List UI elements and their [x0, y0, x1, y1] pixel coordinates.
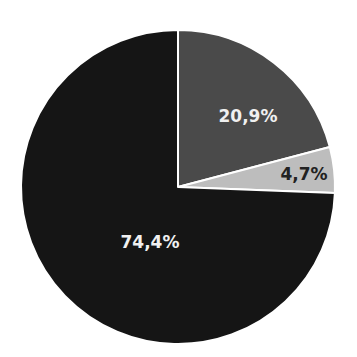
- pie-slices: [21, 30, 335, 344]
- slice-label-1: 20,9%: [219, 106, 278, 126]
- pie-chart: 20,9% 4,7% 74,4%: [0, 0, 357, 357]
- slice-label-3: 74,4%: [121, 232, 180, 252]
- slice-label-2: 4,7%: [280, 164, 327, 184]
